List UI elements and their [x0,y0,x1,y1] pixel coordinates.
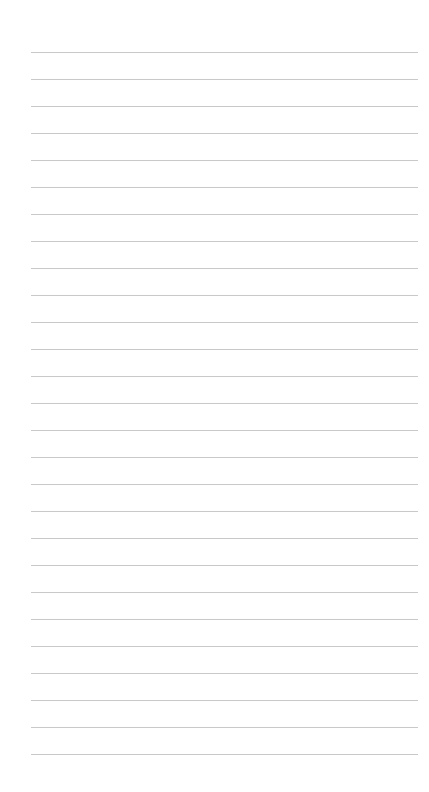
ruled-line [31,700,418,701]
ruled-line [31,619,418,620]
ruled-line [31,268,418,269]
ruled-line [31,457,418,458]
ruled-line [31,376,418,377]
ruled-line [31,52,418,53]
ruled-line [31,646,418,647]
ruled-line [31,322,418,323]
ruled-line [31,160,418,161]
ruled-line [31,403,418,404]
ruled-line [31,511,418,512]
ruled-line [31,592,418,593]
ruled-line [31,106,418,107]
notepad-page[interactable] [0,0,429,792]
ruled-line [31,538,418,539]
ruled-line [31,241,418,242]
ruled-line [31,754,418,755]
ruled-line [31,187,418,188]
ruled-line [31,727,418,728]
ruled-line [31,214,418,215]
ruled-line [31,133,418,134]
ruled-line [31,565,418,566]
ruled-line [31,349,418,350]
ruled-line [31,673,418,674]
ruled-line [31,295,418,296]
ruled-lines-area[interactable] [31,0,418,792]
ruled-line [31,484,418,485]
ruled-line [31,430,418,431]
ruled-line [31,79,418,80]
